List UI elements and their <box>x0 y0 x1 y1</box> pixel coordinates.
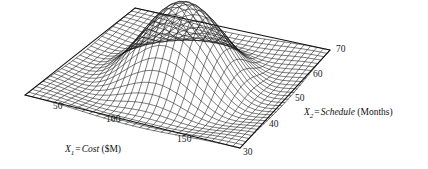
x2-tick-60: 60 <box>313 70 323 80</box>
x2-axis-title: X2=Schedule (Months) <box>304 108 393 120</box>
x2-variable: Schedule <box>321 107 355 117</box>
mesh-lines <box>25 1 330 148</box>
x1-equals: = <box>74 144 81 154</box>
x1-variable: Cost <box>82 144 99 154</box>
x1-tick-150: 150 <box>177 135 192 145</box>
surface-plot-figure: 50 100 150 30 40 50 60 70 X1=Cost ($M) X… <box>0 0 428 169</box>
x1-tick-100: 100 <box>106 115 121 125</box>
x1-units: ($M) <box>101 144 121 154</box>
x1-axis-title: X1=Cost ($M) <box>65 145 121 157</box>
x2-equals: = <box>313 107 320 117</box>
x2-tick-50: 50 <box>295 94 305 104</box>
x2-tick-30: 30 <box>243 148 253 158</box>
x2-tick-70: 70 <box>336 45 346 55</box>
x2-units: (Months) <box>357 107 392 117</box>
x2-tick-40: 40 <box>269 120 279 130</box>
x1-tick-50: 50 <box>53 102 63 112</box>
